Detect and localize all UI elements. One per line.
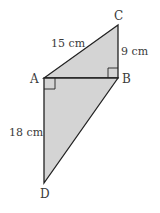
length-label-ad: 18 cm <box>9 126 44 139</box>
triangle-abd <box>44 78 118 183</box>
vertex-label-b: B <box>122 72 131 86</box>
triangle-abc <box>44 25 118 78</box>
geometry-diagram: C A B D 15 cm 9 cm 18 cm <box>0 0 160 213</box>
vertex-label-c: C <box>114 9 123 23</box>
vertex-label-d: D <box>40 187 50 201</box>
length-label-ac: 15 cm <box>51 37 86 50</box>
vertex-label-a: A <box>29 72 39 86</box>
length-label-bc: 9 cm <box>121 45 149 58</box>
